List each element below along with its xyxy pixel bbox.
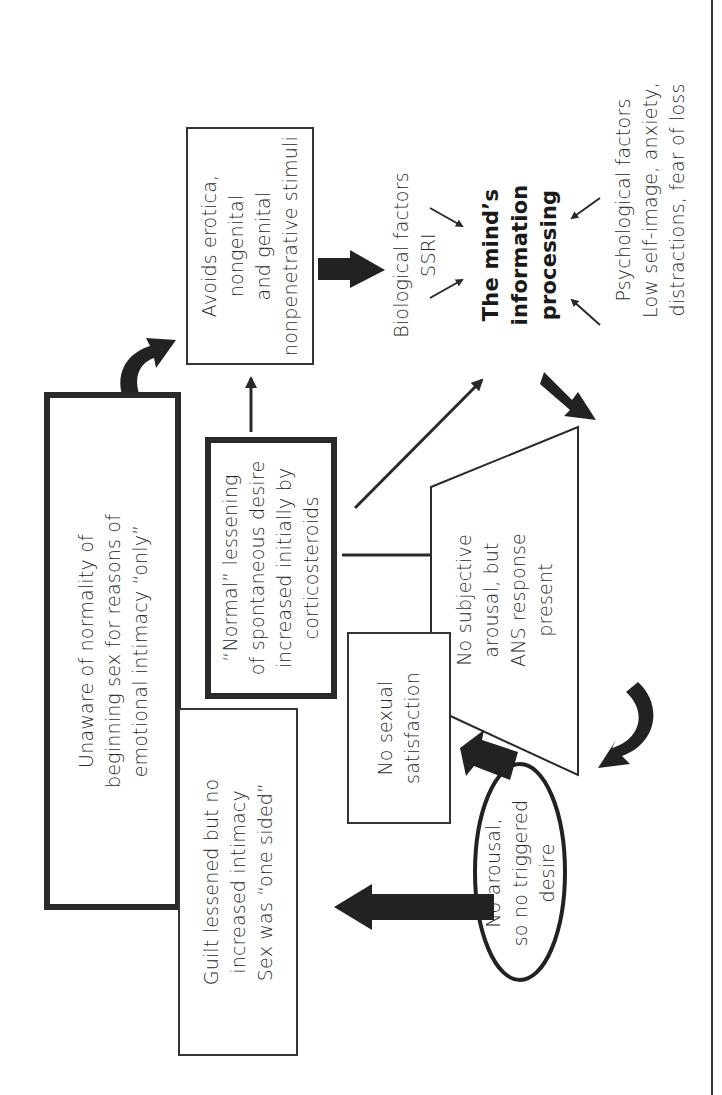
node-guilt-lessened: Guilt lessened but no increased intimacy…: [178, 708, 298, 1056]
label-biological-factors-text: Biological factors SSRI: [388, 172, 442, 338]
curved-arrow-no-subjective-to-no-arousal: [598, 682, 653, 768]
node-no-sexual-satisfaction: No sexual satisfaction: [347, 632, 451, 824]
node-avoids-erotica-text: Avoids erotica, nongenital and genital n…: [196, 136, 304, 356]
node-no-arousal: No arousal, so no triggered desire: [475, 770, 565, 975]
node-guilt-lessened-text: Guilt lessened but no increased intimacy…: [198, 779, 279, 986]
label-biological-factors: Biological factors SSRI: [385, 160, 445, 350]
arrow-psychological-1: [572, 198, 600, 218]
node-no-arousal-text: No arousal, so no triggered desire: [480, 799, 561, 945]
arrow-avoids-to-minds-thick: [318, 250, 385, 288]
node-no-sexual-satisfaction-text: No sexual satisfaction: [372, 672, 426, 784]
node-no-subjective-arousal-text: No subjective arousal, but ANS response …: [451, 533, 559, 667]
node-minds-information-processing-text: The mind’s information processing: [477, 185, 564, 326]
node-normal-lessening: “Normal” lessening of spontaneous desire…: [205, 437, 337, 699]
node-normal-lessening-text: “Normal” lessening of spontaneous desire…: [217, 461, 325, 676]
label-psychological-factors-text: Psychological factors Low self-image, an…: [610, 82, 691, 318]
node-unaware-of-normality: Unaware of normality of beginning sex fo…: [44, 392, 181, 910]
arrow-minds-to-no-subjective-thick: [540, 372, 596, 420]
node-no-subjective-arousal: No subjective arousal, but ANS response …: [440, 480, 570, 720]
node-minds-information-processing: The mind’s information processing: [470, 180, 570, 330]
node-unaware-of-normality-text: Unaware of normality of beginning sex fo…: [72, 514, 153, 788]
arrow-no-arousal-to-guilt-thick: [334, 884, 494, 930]
node-avoids-erotica: Avoids erotica, nongenital and genital n…: [186, 127, 314, 365]
arrow-psychological-2: [572, 300, 600, 325]
label-psychological-factors: Psychological factors Low self-image, an…: [600, 75, 700, 325]
